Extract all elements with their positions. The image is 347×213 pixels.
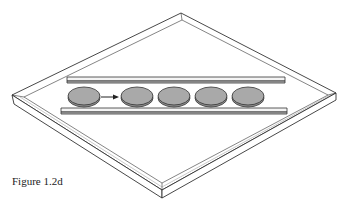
- figure-caption: Figure 1.2d: [12, 175, 63, 187]
- coin-row-4: [232, 87, 264, 107]
- moving-coin: [68, 87, 100, 107]
- upper-rail: [67, 77, 285, 83]
- coin-row-2: [158, 87, 190, 107]
- lower-rail: [61, 108, 287, 114]
- coin-row-3: [195, 87, 227, 107]
- coin-row-1: [121, 87, 153, 107]
